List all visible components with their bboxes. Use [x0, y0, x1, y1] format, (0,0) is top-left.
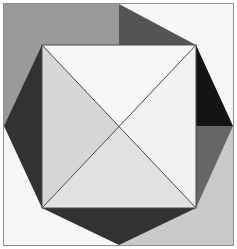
inner-square-group	[42, 45, 196, 208]
image-canvas	[0, 0, 237, 249]
quilt-block-diagram	[0, 0, 237, 249]
